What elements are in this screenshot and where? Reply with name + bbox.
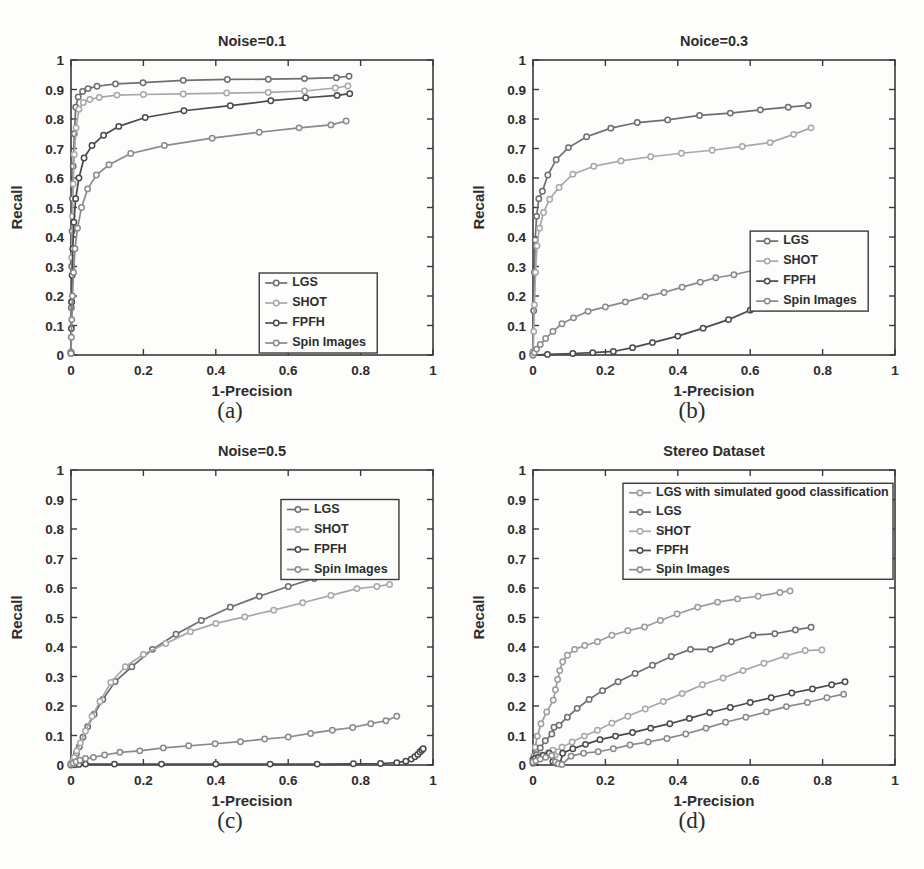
data-point-marker bbox=[586, 697, 591, 702]
legend-swatch-marker bbox=[274, 340, 279, 345]
y-tick-label: 0.4 bbox=[45, 230, 64, 245]
data-point-marker bbox=[541, 210, 546, 215]
data-point-marker bbox=[257, 130, 262, 135]
series-line bbox=[533, 694, 844, 764]
legend-swatch-marker bbox=[637, 567, 642, 572]
data-point-marker bbox=[623, 299, 628, 304]
panel-b: Noice=0.300.20.40.60.8100.10.20.30.40.50… bbox=[462, 20, 924, 420]
data-point-marker bbox=[129, 664, 134, 669]
y-tick-label: 0.2 bbox=[45, 699, 64, 714]
y-tick-label: 0.6 bbox=[507, 171, 526, 186]
data-point-marker bbox=[302, 76, 307, 81]
data-point-marker bbox=[533, 270, 538, 275]
chart-c[interactable]: Noise=0.500.20.40.60.8100.10.20.30.40.50… bbox=[0, 430, 462, 830]
data-point-marker bbox=[286, 584, 291, 589]
data-point-marker bbox=[538, 745, 543, 750]
data-point-marker bbox=[387, 582, 392, 587]
y-tick-label: 0.4 bbox=[45, 640, 64, 655]
data-point-marker bbox=[345, 83, 350, 88]
x-tick-label: 0.8 bbox=[813, 363, 832, 378]
data-point-marker bbox=[595, 727, 600, 732]
y-tick-label: 0.1 bbox=[507, 729, 526, 744]
data-point-marker bbox=[69, 335, 74, 340]
data-point-marker bbox=[159, 761, 164, 766]
data-point-marker bbox=[805, 700, 810, 705]
x-tick-label: 0 bbox=[67, 363, 75, 378]
x-tick-label: 0 bbox=[529, 363, 537, 378]
data-point-marker bbox=[808, 625, 813, 630]
series-lgs-with-simulated-good-classification bbox=[530, 588, 792, 765]
data-point-marker bbox=[643, 706, 648, 711]
y-tick-label: 0.8 bbox=[507, 522, 526, 537]
data-point-marker bbox=[330, 727, 335, 732]
panel-c: Noise=0.500.20.40.60.8100.10.20.30.40.50… bbox=[0, 430, 462, 830]
data-point-marker bbox=[595, 749, 600, 754]
data-point-marker bbox=[378, 761, 383, 766]
data-point-marker bbox=[328, 593, 333, 598]
y-tick-label: 0.1 bbox=[45, 319, 64, 334]
y-tick-label: 0.6 bbox=[45, 171, 64, 186]
data-point-marker bbox=[791, 132, 796, 137]
x-tick-label: 0 bbox=[529, 773, 537, 788]
chart-b[interactable]: Noice=0.300.20.40.60.8100.10.20.30.40.50… bbox=[462, 20, 924, 420]
data-point-marker bbox=[841, 692, 846, 697]
x-tick-label: 0.4 bbox=[206, 773, 225, 788]
data-point-marker bbox=[625, 714, 630, 719]
data-point-marker bbox=[728, 110, 733, 115]
series-line bbox=[533, 650, 822, 759]
data-point-marker bbox=[383, 718, 388, 723]
data-point-marker bbox=[81, 155, 86, 160]
chart-d[interactable]: Stereo Dataset00.20.40.60.8100.10.20.30.… bbox=[462, 430, 924, 830]
chart-a[interactable]: Noise=0.100.20.40.60.8100.10.20.30.40.50… bbox=[0, 20, 462, 420]
data-point-marker bbox=[700, 682, 705, 687]
data-point-marker bbox=[137, 748, 142, 753]
legend-swatch-marker bbox=[295, 567, 300, 572]
data-point-marker bbox=[648, 725, 653, 730]
data-point-marker bbox=[642, 624, 647, 629]
data-point-marker bbox=[141, 652, 146, 657]
data-point-marker bbox=[334, 75, 339, 80]
data-point-marker bbox=[661, 699, 666, 704]
data-point-marker bbox=[560, 659, 565, 664]
data-point-marker bbox=[257, 594, 262, 599]
data-point-marker bbox=[695, 604, 700, 609]
y-tick-label: 1 bbox=[518, 463, 526, 478]
data-point-marker bbox=[700, 325, 705, 330]
legend-label: Spin Images bbox=[292, 335, 366, 349]
data-point-marker bbox=[556, 185, 561, 190]
data-point-marker bbox=[76, 94, 81, 99]
data-point-marker bbox=[85, 186, 90, 191]
data-point-marker bbox=[698, 279, 703, 284]
legend: LGSSHOTFPFHSpin Images bbox=[259, 273, 377, 353]
legend-swatch-marker bbox=[295, 547, 300, 552]
data-point-marker bbox=[805, 103, 810, 108]
data-point-marker bbox=[783, 653, 788, 658]
x-tick-label: 0.6 bbox=[279, 773, 298, 788]
legend: LGSSHOTFPFHSpin Images bbox=[750, 231, 868, 311]
data-point-marker bbox=[829, 682, 834, 687]
data-point-marker bbox=[824, 695, 829, 700]
y-tick-label: 0.2 bbox=[45, 289, 64, 304]
y-tick-label: 0.8 bbox=[45, 112, 64, 127]
data-point-marker bbox=[75, 225, 80, 230]
data-point-marker bbox=[87, 97, 92, 102]
data-point-marker bbox=[268, 98, 273, 103]
data-point-marker bbox=[286, 734, 291, 739]
data-point-marker bbox=[584, 134, 589, 139]
legend-label: Spin Images bbox=[656, 562, 730, 576]
legend-label: SHOT bbox=[783, 253, 818, 267]
data-point-marker bbox=[553, 687, 558, 692]
legend-label: LGS bbox=[314, 502, 340, 516]
data-point-marker bbox=[571, 315, 576, 320]
data-point-marker bbox=[547, 197, 552, 202]
y-tick-label: 0.9 bbox=[507, 83, 526, 98]
data-point-marker bbox=[600, 688, 605, 693]
data-point-marker bbox=[630, 345, 635, 350]
data-point-marker bbox=[538, 342, 543, 347]
x-tick-label: 0.8 bbox=[351, 363, 370, 378]
data-point-marker bbox=[368, 721, 373, 726]
y-tick-label: 0.5 bbox=[45, 201, 64, 216]
y-tick-label: 1 bbox=[56, 53, 64, 68]
data-point-marker bbox=[565, 715, 570, 720]
subplot-label-a: (a) bbox=[170, 398, 290, 424]
